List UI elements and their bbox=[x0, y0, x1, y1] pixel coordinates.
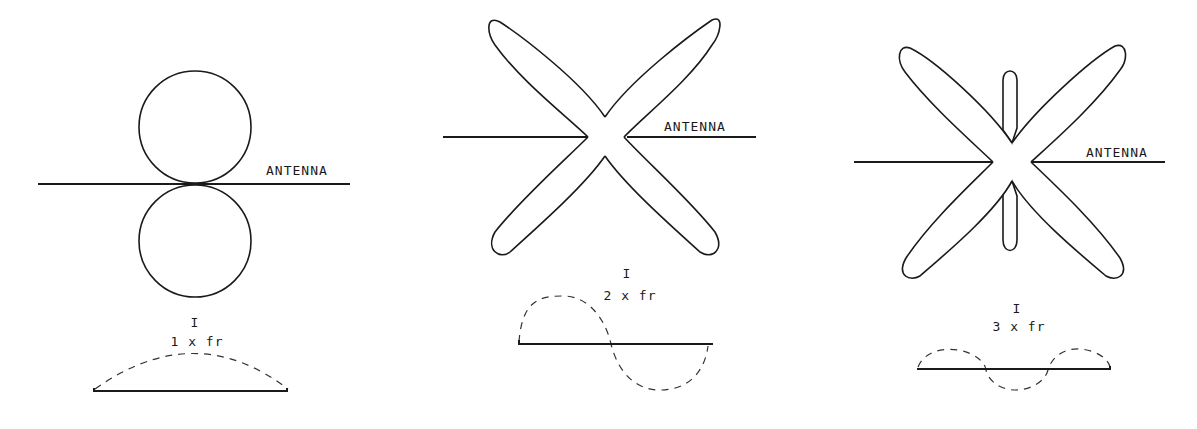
lobe-upper-left bbox=[899, 47, 1012, 162]
antenna-label: ANTENNA bbox=[664, 119, 726, 134]
lobe-lower-right bbox=[605, 137, 719, 255]
antenna-harmonics-diagram: ANTENNA I 1 x fr ANTENNA I 2 x fr bbox=[0, 0, 1197, 429]
frequency-label: 2 x fr bbox=[604, 288, 657, 303]
upper-lobe bbox=[139, 71, 251, 183]
current-wave bbox=[95, 354, 288, 390]
current-distribution-3x bbox=[917, 349, 1111, 390]
panel-1x-frequency: ANTENNA I 1 x fr bbox=[38, 71, 350, 391]
current-label: I bbox=[1013, 301, 1022, 316]
panel-2x-frequency: ANTENNA I 2 x fr bbox=[443, 19, 756, 390]
lower-lobe bbox=[139, 185, 251, 297]
current-distribution-2x bbox=[518, 296, 713, 390]
panel-3x-frequency: ANTENNA I 3 x fr bbox=[854, 45, 1165, 390]
lobe-lower-right bbox=[1012, 162, 1123, 278]
frequency-label: 1 x fr bbox=[171, 334, 224, 349]
antenna-label: ANTENNA bbox=[1086, 145, 1148, 160]
current-distribution-1x bbox=[93, 354, 288, 392]
lobe-upper-left bbox=[489, 20, 605, 137]
current-label: I bbox=[191, 315, 200, 330]
lobe-lower-left bbox=[903, 162, 1012, 278]
current-label: I bbox=[623, 266, 632, 281]
lobe-lower-left bbox=[492, 137, 605, 255]
frequency-label: 3 x fr bbox=[993, 319, 1046, 334]
antenna-label: ANTENNA bbox=[266, 163, 328, 178]
